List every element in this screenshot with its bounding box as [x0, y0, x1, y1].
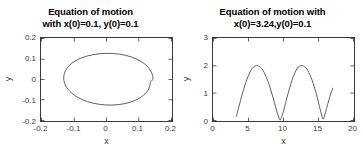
orbit-curve [64, 53, 153, 105]
xtick-label-left-1: -0.1 [60, 124, 87, 133]
plot-area-right [212, 37, 355, 122]
chart-title-left-line1: Equation of motion [0, 6, 181, 18]
figure-container: Equation of motion with x(0)=0.1, y(0)=0… [0, 0, 363, 159]
yaxis-label-left: y [3, 67, 13, 91]
ytick-label-right-0: 3 [190, 33, 208, 42]
ytick-label-left-2: 0 [16, 75, 36, 84]
plot-svg-left [41, 38, 172, 121]
ytick-label-left-0: 0.2 [16, 33, 36, 42]
plot-svg-right [213, 38, 354, 121]
ytick-label-right-2: 1 [190, 89, 208, 98]
chart-title-left: Equation of motion with x(0)=0.1, y(0)=0… [0, 6, 181, 30]
xaxis-label-right: x [212, 136, 355, 146]
trajectory-curve [236, 66, 333, 121]
xtick-label-right-3: 15 [304, 124, 331, 133]
chart-title-right-line2: x(0)=3.24,y(0)=0.1 [182, 18, 363, 30]
xtick-label-left-4: 0.2 [157, 124, 184, 133]
panel-left: Equation of motion with x(0)=0.1, y(0)=0… [0, 0, 181, 159]
ytick-label-right-1: 2 [190, 61, 208, 70]
plot-area-left [40, 37, 173, 122]
xaxis-label-left: x [40, 136, 173, 146]
chart-title-right: Equation of motion with x(0)=3.24,y(0)=0… [182, 6, 363, 30]
xtick-label-left-0: -0.2 [27, 124, 54, 133]
chart-title-right-line1: Equation of motion with [182, 6, 363, 18]
ytick-label-left-1: 0.1 [16, 54, 36, 63]
xtick-label-right-0: 0 [199, 124, 226, 133]
tick-marks-right [213, 38, 354, 121]
chart-title-left-line2: with x(0)=0.1, y(0)=0.1 [0, 18, 181, 30]
panel-right: Equation of motion with x(0)=3.24,y(0)=0… [182, 0, 363, 159]
xtick-label-right-4: 20 [339, 124, 363, 133]
xtick-label-left-2: 0 [92, 124, 119, 133]
xtick-label-right-1: 5 [234, 124, 261, 133]
xtick-label-right-2: 10 [269, 124, 296, 133]
yaxis-label-right: y [181, 67, 191, 91]
xtick-label-left-3: 0.1 [124, 124, 151, 133]
ytick-label-left-3: -0.1 [16, 96, 36, 105]
